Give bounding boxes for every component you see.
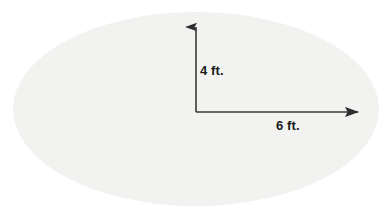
height-dimension-label: 4 ft.: [200, 64, 224, 77]
width-dimension-label: 6 ft.: [276, 119, 300, 132]
figure-canvas: [0, 0, 391, 218]
geometry-figure: 4 ft. 6 ft.: [0, 0, 391, 218]
